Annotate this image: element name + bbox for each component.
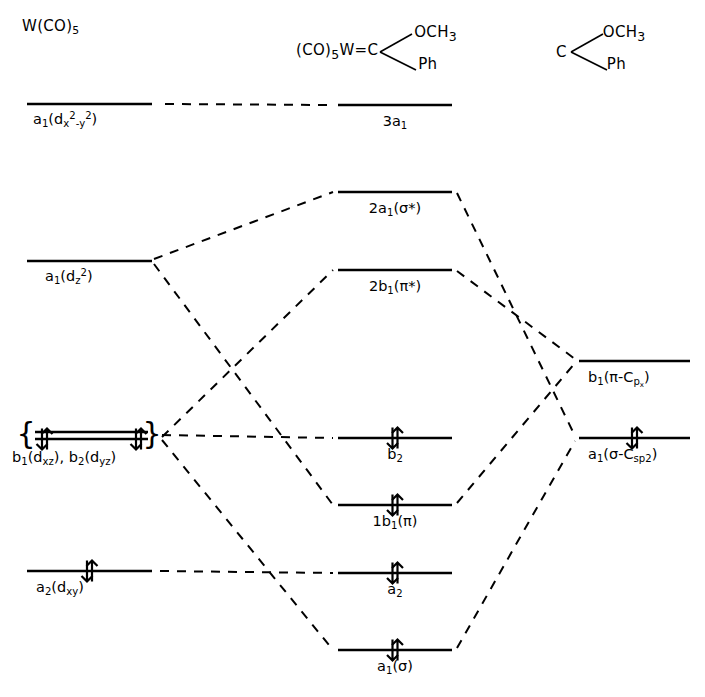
orbital-label-2b1-pi-star: 2b1(π*) bbox=[369, 279, 421, 294]
orbital-label-a1-sigma: a1(σ) bbox=[377, 659, 413, 674]
correlation-line bbox=[154, 192, 333, 259]
orbital-label-2a1-sigma-star: 2a1(σ*) bbox=[369, 201, 421, 216]
orbital-label-1b1-pi: 1b1(π) bbox=[373, 514, 418, 529]
orbital-label-b2: b2 bbox=[387, 447, 403, 462]
orbital-label-3a1: 3a1 bbox=[383, 114, 408, 129]
electron-arrows-group bbox=[37, 428, 643, 661]
orbital-label-b1-dxz-b2-dyz-lower: b1(dxz), b2(dyz) bbox=[12, 450, 116, 465]
orbital-label-a2-dxy: a2(dxy) bbox=[36, 580, 84, 595]
orbital-label-a2: a2 bbox=[387, 582, 402, 597]
correlation-lines-group bbox=[154, 104, 575, 650]
orbital-levels-canvas: {} bbox=[0, 0, 705, 697]
correlation-line bbox=[162, 435, 333, 438]
correlation-line bbox=[457, 271, 575, 359]
orbital-label-a1-sigma-Csp2: a1(σ-Csp2) bbox=[588, 447, 657, 462]
orbital-label-a1-dx2y2: a1(dx2-y2) bbox=[33, 112, 97, 127]
correlation-line bbox=[457, 363, 575, 503]
brace-right: } bbox=[142, 416, 161, 451]
correlation-line bbox=[165, 104, 330, 105]
correlation-line bbox=[160, 571, 333, 573]
correlation-line bbox=[154, 264, 333, 505]
correlation-line bbox=[162, 270, 333, 437]
correlation-line bbox=[457, 441, 575, 648]
brace-left: { bbox=[16, 416, 35, 451]
mo-correlation-diagram: W(CO)5 (CO)5W=C OCH3 Ph C OCH3 Ph bbox=[0, 0, 705, 697]
orbital-label-a1-dz2: a1(dz2) bbox=[45, 269, 93, 284]
orbital-label-b1-pi-Cpx: b1(π-Cpx) bbox=[588, 370, 650, 385]
